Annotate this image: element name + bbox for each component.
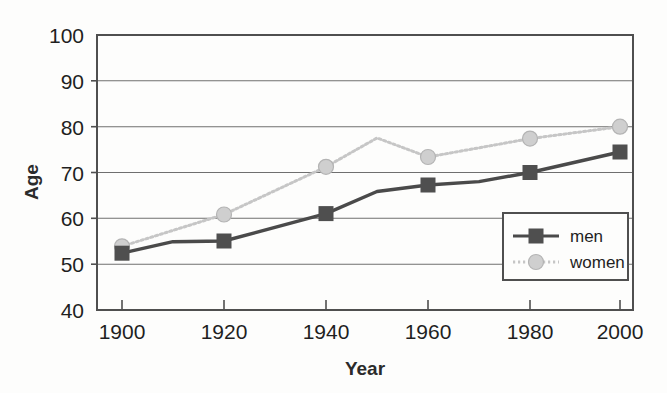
men-point-1960 <box>421 178 436 193</box>
line-chart-figure: men women 100 90 80 70 60 50 40 1900 192… <box>0 0 667 393</box>
xtick-label-1900: 1900 <box>99 320 146 343</box>
chart-canvas: men women 100 90 80 70 60 50 40 1900 192… <box>0 0 667 393</box>
xtick-label-2000: 2000 <box>597 320 644 343</box>
xtick-label-1920: 1920 <box>201 320 248 343</box>
legend-men-square-icon <box>529 229 544 244</box>
women-point-1920 <box>217 207 232 222</box>
ytick-label-70: 70 <box>61 162 84 185</box>
legend-men-label: men <box>570 227 603 246</box>
ytick-label-100: 100 <box>49 24 84 47</box>
legend-women-circle-icon <box>529 255 544 270</box>
men-point-1920 <box>217 234 232 249</box>
xtick-label-1960: 1960 <box>405 320 452 343</box>
women-point-2000 <box>613 119 628 134</box>
women-point-1960 <box>421 150 436 165</box>
ytick-label-40: 40 <box>61 299 84 322</box>
men-point-1900 <box>115 246 130 261</box>
legend-women-label: women <box>569 253 625 272</box>
y-axis-title: Age <box>21 164 42 200</box>
x-axis-title: Year <box>345 358 386 379</box>
chart-legend[interactable]: men women <box>503 213 628 280</box>
xtick-label-1940: 1940 <box>303 320 350 343</box>
men-point-1980 <box>523 165 538 180</box>
men-point-1940 <box>319 206 334 221</box>
women-point-1940 <box>319 159 334 174</box>
ytick-label-60: 60 <box>61 207 84 230</box>
women-point-1980 <box>523 131 538 146</box>
men-point-2000 <box>613 145 628 160</box>
xtick-label-1980: 1980 <box>507 320 554 343</box>
ytick-label-50: 50 <box>61 253 84 276</box>
ytick-label-80: 80 <box>61 116 84 139</box>
ytick-label-90: 90 <box>61 70 84 93</box>
